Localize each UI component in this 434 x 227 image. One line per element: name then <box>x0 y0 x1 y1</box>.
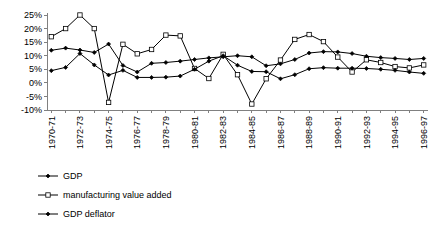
y-tick-label: 10% <box>24 51 42 61</box>
x-tick-label-group: 1970-711972-731974-751976-771978-791980-… <box>47 116 429 149</box>
marker-filled-diamond <box>193 58 197 62</box>
marker-filled-diamond <box>307 67 311 71</box>
marker-open-square <box>164 33 168 37</box>
marker-filled-diamond <box>236 54 240 58</box>
marker-open-square <box>106 100 110 104</box>
marker-filled-diamond <box>64 46 68 50</box>
x-tick-label: 1984-85 <box>247 116 257 149</box>
marker-filled-diamond <box>164 75 168 79</box>
marker-filled-diamond <box>164 61 168 65</box>
marker-filled-diamond <box>293 58 297 62</box>
x-tick-label: 1980-81 <box>190 116 200 149</box>
marker-open-square <box>293 37 297 41</box>
x-tick-label: 1990-91 <box>333 116 343 149</box>
marker-open-square <box>379 60 383 64</box>
marker-open-square <box>250 102 254 106</box>
marker-filled-diamond <box>135 75 139 79</box>
x-axis: 1970-711972-731974-751976-771978-791980-… <box>47 110 429 149</box>
marker-open-square <box>235 73 239 77</box>
y-tick-label: 15% <box>24 37 42 47</box>
marker-open-square <box>407 66 411 70</box>
marker-open-square <box>149 47 153 51</box>
y-tick-label: 5% <box>29 64 42 74</box>
marker-open-square <box>178 34 182 38</box>
x-tick-label: 1986-87 <box>276 116 286 149</box>
marker-filled-diamond <box>407 70 411 74</box>
series-gdp <box>49 42 425 74</box>
marker-filled-diamond <box>364 66 368 70</box>
marker-filled-diamond <box>150 75 154 79</box>
marker-filled-diamond <box>336 50 340 54</box>
marker-filled-diamond <box>49 48 53 52</box>
x-tick-label: 1994-95 <box>390 116 400 149</box>
series-group <box>49 13 426 106</box>
y-tick-label: 25% <box>24 10 42 20</box>
legend-label: manufacturing value added <box>63 190 172 200</box>
marker-filled-diamond <box>278 77 282 81</box>
x-tick-label: 1992-93 <box>362 116 372 149</box>
marker-filled-diamond <box>321 66 325 70</box>
marker-filled-diamond <box>121 68 125 72</box>
marker-open-square <box>264 77 268 81</box>
marker-open-square <box>49 35 53 39</box>
marker-open-square <box>278 58 282 62</box>
marker-open-square <box>121 42 125 46</box>
x-tick-label: 1974-75 <box>104 116 114 149</box>
legend-item-gdp[interactable]: GDP <box>38 171 83 181</box>
marker-filled-diamond <box>422 56 426 60</box>
legend-item-manufacturing-value-added[interactable]: manufacturing value added <box>38 190 172 200</box>
marker-filled-diamond <box>350 52 354 56</box>
marker-filled-diamond <box>46 212 50 216</box>
legend-label: GDP deflator <box>63 209 115 219</box>
x-tick-label: 1988-89 <box>304 116 314 149</box>
marker-filled-diamond <box>49 69 53 73</box>
marker-open-square <box>135 52 139 56</box>
marker-filled-diamond <box>250 69 254 73</box>
marker-open-square <box>364 58 368 62</box>
marker-filled-diamond <box>379 56 383 60</box>
y-tick-label: -10% <box>21 105 42 115</box>
marker-filled-diamond <box>178 59 182 63</box>
x-tick-label: 1976-77 <box>132 116 142 149</box>
line-chart: 25%20%15%10%5%0%-5%-10% 1970-711972-7319… <box>0 0 434 227</box>
x-tick-label: 1982-83 <box>218 116 228 149</box>
marker-open-square <box>307 32 311 36</box>
y-tick-group: 25%20%15%10%5%0%-5%-10% <box>21 10 47 115</box>
chart-container: 25%20%15%10%5%0%-5%-10% 1970-711972-7319… <box>0 0 434 227</box>
chart-legend: GDPmanufacturing value addedGDP deflator <box>38 171 172 219</box>
marker-filled-diamond <box>336 66 340 70</box>
marker-open-square <box>78 13 82 17</box>
marker-filled-diamond <box>46 174 50 178</box>
x-tick-label: 1996-97 <box>419 116 429 149</box>
marker-open-square <box>207 76 211 80</box>
marker-open-square <box>422 63 426 67</box>
legend-label: GDP <box>63 171 83 181</box>
marker-filled-diamond <box>393 56 397 60</box>
legend-item-gdp-deflator[interactable]: GDP deflator <box>38 209 115 219</box>
y-axis: 25%20%15%10%5%0%-5%-10% <box>21 10 47 115</box>
y-tick-label: 0% <box>29 78 42 88</box>
marker-filled-diamond <box>307 51 311 55</box>
marker-filled-diamond <box>178 74 182 78</box>
x-tick-label: 1972-73 <box>75 116 85 149</box>
marker-open-square <box>336 55 340 59</box>
y-tick-label: 20% <box>24 24 42 34</box>
marker-filled-diamond <box>207 59 211 63</box>
marker-filled-diamond <box>379 67 383 71</box>
marker-open-square <box>92 26 96 30</box>
x-tick-label: 1978-79 <box>161 116 171 149</box>
x-tick-label: 1970-71 <box>47 116 57 149</box>
marker-filled-diamond <box>293 73 297 77</box>
marker-open-square <box>46 193 50 197</box>
y-tick-label: -5% <box>26 92 42 102</box>
marker-filled-diamond <box>407 58 411 62</box>
marker-open-square <box>63 26 67 30</box>
marker-filled-diamond <box>264 70 268 74</box>
marker-filled-diamond <box>422 71 426 75</box>
marker-open-square <box>321 39 325 43</box>
marker-filled-diamond <box>321 50 325 54</box>
series-manufacturing-value-added <box>49 13 426 106</box>
